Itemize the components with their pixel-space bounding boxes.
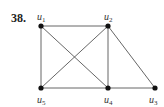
node-u4	[105, 85, 110, 90]
graph-nodes	[38, 23, 157, 90]
node-u3	[152, 85, 157, 90]
graph-labels: u1u2u3u4u5	[37, 11, 158, 107]
edge-u2-u3	[108, 26, 155, 88]
node-u2	[105, 23, 110, 28]
node-label-u4: u4	[104, 94, 113, 107]
node-u1	[38, 23, 43, 28]
node-label-u1: u1	[37, 11, 46, 24]
node-u5	[38, 85, 43, 90]
graph-diagram: u1u2u3u4u5	[0, 0, 164, 107]
node-label-u3: u3	[149, 94, 158, 107]
graph-edges	[41, 26, 155, 88]
node-label-u5: u5	[37, 94, 46, 107]
node-label-u2: u2	[104, 11, 113, 24]
